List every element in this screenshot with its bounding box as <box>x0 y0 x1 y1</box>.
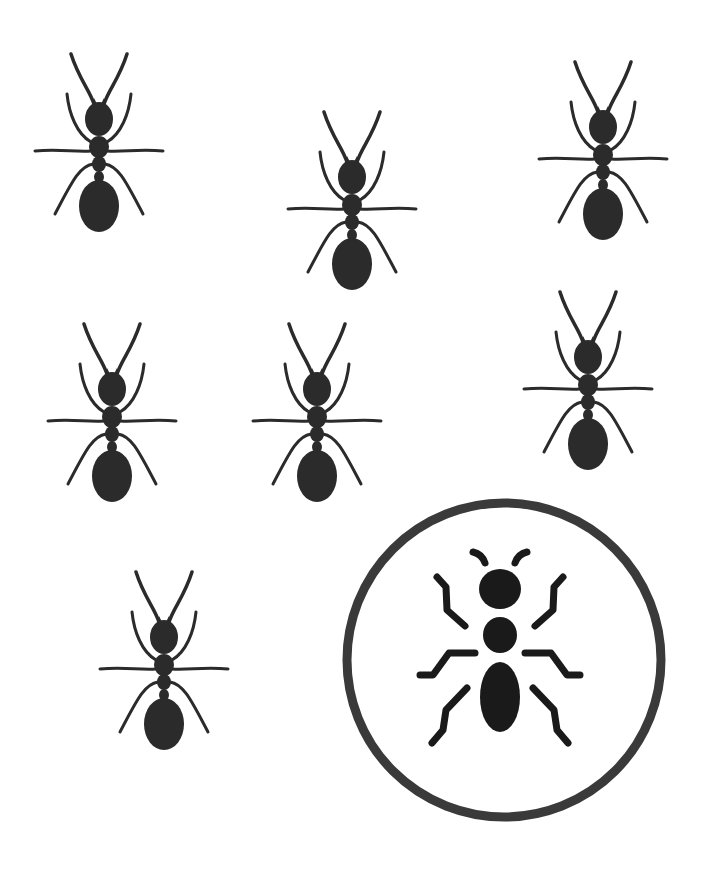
ant-badge <box>0 0 705 871</box>
badge-ring <box>347 503 661 817</box>
